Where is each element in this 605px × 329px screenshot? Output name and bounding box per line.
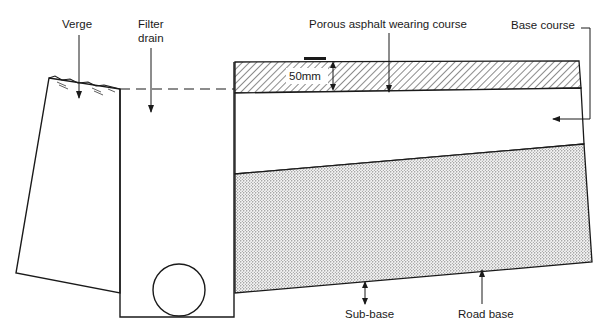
thickness-label: 50mm — [289, 70, 321, 82]
wearing-course-label: Porous asphalt wearing course — [309, 18, 467, 30]
drain-pipe — [153, 264, 205, 316]
base-course-label: Base course — [511, 19, 575, 31]
sub-base-label: Sub-base — [345, 308, 394, 320]
surface-marker — [304, 57, 326, 60]
filter-drain — [120, 62, 234, 317]
verge-label: Verge — [62, 18, 92, 30]
sub-base-dimension — [362, 281, 368, 305]
verge — [16, 76, 120, 293]
road-cross-section-diagram: 50mm Verge Filter drain Porous asphalt w… — [0, 0, 605, 329]
road-base-label: Road base — [458, 308, 514, 320]
filter-drain-label-line2: drain — [138, 32, 164, 44]
filter-drain-label-line1: Filter — [138, 18, 164, 30]
